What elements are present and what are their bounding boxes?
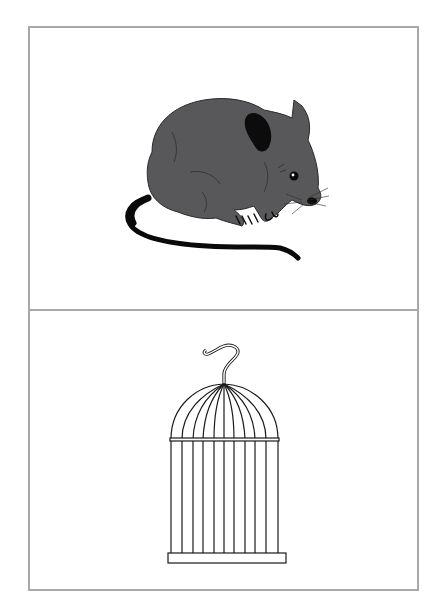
picture-card	[28, 26, 419, 591]
cage-panel	[30, 311, 417, 589]
mouse-icon	[30, 28, 421, 309]
birdcage-icon	[30, 311, 421, 589]
mouse-panel	[30, 28, 417, 309]
